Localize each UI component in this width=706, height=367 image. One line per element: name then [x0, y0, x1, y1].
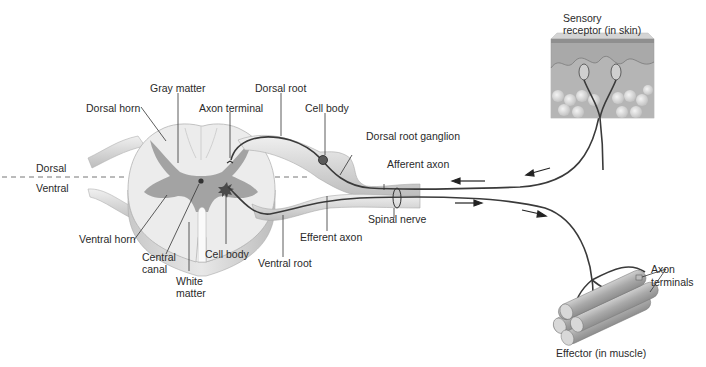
- dorsal-root-ganglion-label: Dorsal root ganglion: [366, 130, 460, 142]
- ventral-horn-label: Ventral horn: [79, 233, 136, 245]
- muscle-bundle: [547, 265, 666, 348]
- skin-block: [551, 33, 654, 170]
- cell-body-dorsal-label: Cell body: [305, 102, 349, 114]
- axon-terminals-label-line2: terminals: [651, 276, 694, 288]
- dorsal-root-label: Dorsal root: [255, 82, 306, 94]
- dorsal-label: Dorsal: [36, 162, 66, 174]
- central-canal-label-line1: Central: [142, 251, 176, 263]
- axon-terminal-label: Axon terminal: [199, 102, 263, 114]
- afferent-axon-label: Afferent axon: [387, 158, 449, 170]
- white-matter-label-line1: White: [176, 275, 203, 287]
- efferent-direction-arrows: [455, 200, 546, 217]
- axon-terminals-label-line1: Axon: [651, 263, 675, 275]
- dorsal-horn-label: Dorsal horn: [86, 102, 140, 114]
- ventral-label: Ventral: [36, 182, 69, 194]
- afferent-direction-arrows: [452, 168, 550, 184]
- reflex-arc-diagram: Dorsal Ventral Gray matter Dorsal horn D…: [0, 0, 706, 367]
- cell-body-ventral-label: Cell body: [205, 248, 249, 260]
- effector-label: Effector (in muscle): [556, 347, 646, 359]
- sensory-receptor-label-line1: Sensory: [563, 12, 602, 24]
- efferent-axon-label: Efferent axon: [300, 231, 362, 243]
- spinal-nerve-label: Spinal nerve: [368, 213, 426, 225]
- receptor-right: [611, 64, 621, 80]
- sensory-receptor-label-line2: receptor (in skin): [563, 24, 641, 36]
- diagram-artwork: [0, 0, 706, 367]
- white-matter-label-line2: matter: [176, 287, 206, 299]
- central-canal-label-line2: canal: [142, 263, 167, 275]
- ganglion-cell-body: [319, 156, 328, 165]
- receptor-left: [579, 64, 589, 80]
- ventral-root-label: Ventral root: [258, 257, 312, 269]
- gray-matter-label: Gray matter: [150, 82, 205, 94]
